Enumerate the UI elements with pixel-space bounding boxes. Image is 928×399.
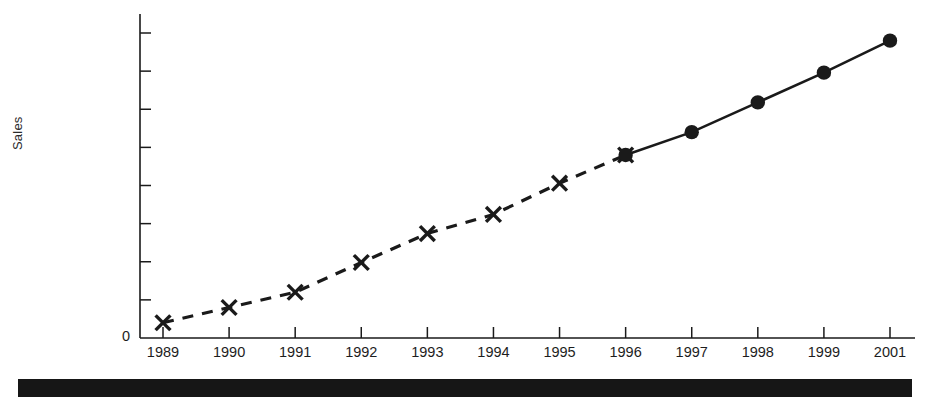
data-series xyxy=(156,33,898,330)
footer-bar xyxy=(18,379,912,397)
data-point-circle xyxy=(685,125,699,139)
data-point-x xyxy=(354,255,369,270)
data-point-circle xyxy=(751,95,765,109)
data-point-circle xyxy=(883,33,897,47)
data-point-circle xyxy=(618,148,632,162)
plot-area xyxy=(0,0,928,399)
axes xyxy=(140,14,915,338)
sales-line-chart: Sales 0$50,000$100,000$150,000$200,000$2… xyxy=(0,0,928,399)
data-point-x xyxy=(552,176,567,191)
data-point-circle xyxy=(817,65,831,79)
